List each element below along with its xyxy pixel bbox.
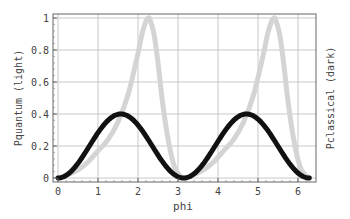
y-axis-label-left: Pquantum (light) (13, 50, 24, 146)
y-axis-label-right: Pclassical (dark) (325, 47, 336, 149)
y-tick-label: 0.6 (31, 77, 49, 88)
x-tick-label: 5 (255, 186, 261, 197)
x-tick-label: 0 (55, 186, 61, 197)
x-axis-label: phi (173, 200, 193, 213)
x-tick-label: 3 (175, 186, 181, 197)
x-ticks: 0123456 (55, 178, 306, 197)
x-tick-label: 4 (215, 186, 221, 197)
y-tick-label: 0.4 (31, 109, 49, 120)
y-tick-label: 0 (43, 173, 49, 184)
x-tick-label: 6 (295, 186, 301, 197)
y-tick-label: 1 (43, 13, 49, 24)
y-tick-label: 0.2 (31, 141, 49, 152)
light-series-quantum (58, 18, 309, 178)
chart: 0123456 00.20.40.60.81 phi Pquantum (lig… (0, 0, 350, 219)
x-tick-label: 1 (95, 186, 101, 197)
y-tick-label: 0.8 (31, 45, 49, 56)
x-tick-label: 2 (135, 186, 141, 197)
